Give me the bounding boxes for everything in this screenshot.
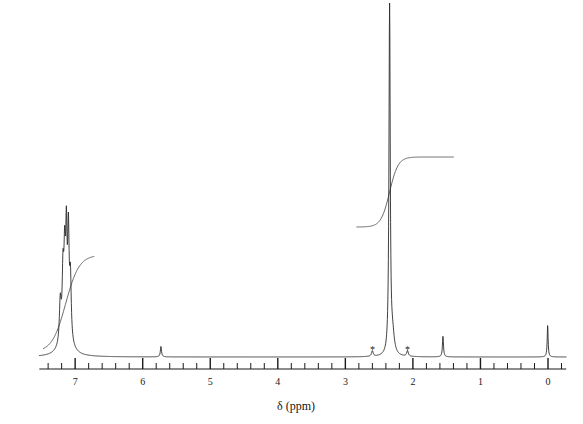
integral-curves bbox=[43, 157, 453, 349]
spectrum-trace bbox=[39, 3, 566, 357]
axis-tick-label-4: 4 bbox=[275, 377, 280, 387]
asterisk-marker-2: * bbox=[405, 345, 410, 355]
integral-curve-methyl bbox=[357, 157, 454, 227]
axis-tick-label-1: 1 bbox=[478, 377, 483, 387]
axis-tick-label-7: 7 bbox=[73, 377, 78, 387]
spectrum-trace-group bbox=[39, 3, 566, 357]
asterisk-marker-1: * bbox=[370, 345, 375, 355]
axis-tick-label-0: 0 bbox=[546, 377, 551, 387]
nmr-spectrum-figure: 76543210 ** δ (ppm) bbox=[0, 0, 583, 424]
axis-tick-label-3: 3 bbox=[343, 377, 348, 387]
integral-curve-aromatic bbox=[43, 256, 94, 348]
axis-title: δ (ppm) bbox=[277, 400, 315, 412]
spectrum-canvas bbox=[0, 0, 583, 424]
axis-ticks bbox=[48, 358, 561, 369]
axis-tick-label-6: 6 bbox=[140, 377, 145, 387]
axis-tick-label-5: 5 bbox=[208, 377, 213, 387]
axis-group bbox=[39, 358, 566, 369]
axis-tick-label-2: 2 bbox=[410, 377, 415, 387]
